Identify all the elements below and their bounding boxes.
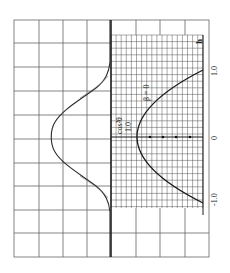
tick-label-pos: 1.0 xyxy=(210,66,219,76)
figure: h 1.0 0 -1.0 cos²θ 1.0 β = 0 xyxy=(0,0,230,273)
tick-label-neg: -1.0 xyxy=(210,193,219,206)
tick-label-zero: 0 xyxy=(210,136,219,140)
pulse-trace xyxy=(51,20,110,257)
y-axis-label: cos²θ xyxy=(115,117,124,134)
y-tick-label: 1.0 xyxy=(124,122,133,132)
h-axis-label: h xyxy=(194,39,204,44)
beta-annotation: β = 0 xyxy=(142,84,151,101)
pulse-trace-echo xyxy=(80,76,108,198)
fine-grid xyxy=(111,35,203,208)
